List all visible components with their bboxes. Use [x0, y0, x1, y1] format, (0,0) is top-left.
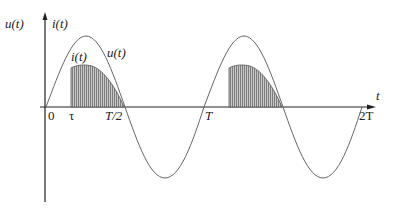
x-axis-label: t — [376, 88, 380, 103]
tick-period: T — [205, 108, 213, 123]
current-pulse-1 — [71, 65, 124, 107]
tick-half-period: T/2 — [105, 108, 123, 123]
y-label-voltage: u(t) — [5, 16, 24, 31]
y-axis-arrow-icon — [43, 12, 48, 20]
curve-label-current: i(t) — [71, 49, 87, 64]
tick-0: 0 — [48, 108, 55, 123]
waveform-diagram: u(t) i(t) u(t) i(t) t 0 τ T/2 T 2T — [0, 0, 394, 208]
tick-two-period: 2T — [359, 108, 374, 123]
tick-tau: τ — [69, 108, 74, 123]
current-pulse-2 — [229, 65, 282, 107]
y-label-current: i(t) — [52, 16, 68, 31]
curve-label-voltage: u(t) — [107, 45, 126, 60]
